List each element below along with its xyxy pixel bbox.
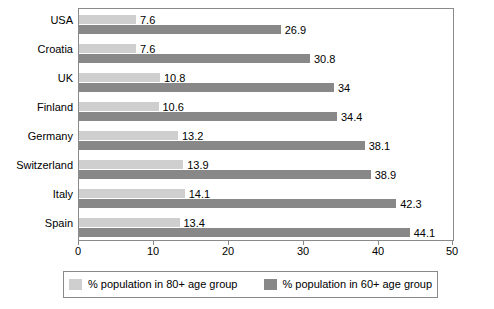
legend-item-80plus: % population in 80+ age group — [69, 279, 238, 290]
bar-value: 14.1 — [189, 188, 210, 199]
bar-60plus: 38.1 — [79, 141, 365, 150]
category-label: Switzerland — [16, 160, 73, 171]
bar-value: 10.8 — [164, 72, 185, 83]
category-label: Italy — [53, 189, 73, 200]
x-tick-label: 0 — [75, 246, 81, 257]
bar-80plus: 10.6 — [79, 102, 159, 111]
legend-label: % population in 80+ age group — [88, 279, 238, 290]
category-label: USA — [50, 15, 73, 26]
bar-80plus: 7.6 — [79, 15, 136, 24]
x-tick-label: 30 — [297, 246, 309, 257]
bar-value: 10.6 — [163, 101, 184, 112]
bar-60plus: 34.4 — [79, 112, 337, 121]
x-axis: 0 10 20 30 40 50 — [78, 241, 454, 259]
bar-60plus: 38.9 — [79, 170, 371, 179]
bar-value: 34.4 — [341, 111, 362, 122]
bar-80plus: 10.8 — [79, 73, 160, 82]
bar-60plus: 26.9 — [79, 25, 281, 34]
bar-80plus: 13.4 — [79, 218, 180, 227]
bar-value: 34 — [338, 82, 350, 93]
legend-item-60plus: % population in 60+ age group — [264, 279, 433, 290]
bar-60plus: 42.3 — [79, 199, 396, 208]
bar-80plus: 14.1 — [79, 189, 185, 198]
bar-value: 44.1 — [414, 227, 435, 238]
bar-value: 42.3 — [400, 198, 421, 209]
bar-value: 7.6 — [140, 14, 155, 25]
x-tick-label: 20 — [222, 246, 234, 257]
bar-value: 30.8 — [314, 53, 335, 64]
legend-swatch-icon — [69, 279, 82, 290]
category-label: Spain — [45, 218, 73, 229]
chart-legend: % population in 80+ age group % populati… — [63, 271, 438, 298]
bar-80plus: 7.6 — [79, 44, 136, 53]
category-label: UK — [58, 73, 73, 84]
bar-60plus: 30.8 — [79, 54, 310, 63]
bar-60plus: 44.1 — [79, 228, 410, 237]
bar-value: 13.9 — [187, 159, 208, 170]
x-tick-label: 40 — [372, 246, 384, 257]
bar-60plus: 34 — [79, 83, 334, 92]
category-label: Germany — [28, 131, 73, 142]
bar-80plus: 13.9 — [79, 160, 183, 169]
bar-value: 13.4 — [184, 217, 205, 228]
bar-value: 38.9 — [375, 169, 396, 180]
x-tick-label: 50 — [446, 246, 458, 257]
bar-80plus: 13.2 — [79, 131, 178, 140]
bar-value: 13.2 — [182, 130, 203, 141]
legend-label: % population in 60+ age group — [283, 279, 433, 290]
category-label: Croatia — [38, 44, 73, 55]
bar-chart: USA 7.6 26.9 Croatia 7.6 30.8 UK 10.8 — [0, 0, 494, 309]
legend-swatch-icon — [264, 279, 277, 290]
plot-area: USA 7.6 26.9 Croatia 7.6 30.8 UK 10.8 — [78, 8, 454, 241]
x-tick-label: 10 — [147, 246, 159, 257]
bar-value: 38.1 — [369, 140, 390, 151]
bar-value: 26.9 — [285, 24, 306, 35]
category-label: Finland — [37, 102, 73, 113]
bar-value: 7.6 — [140, 43, 155, 54]
